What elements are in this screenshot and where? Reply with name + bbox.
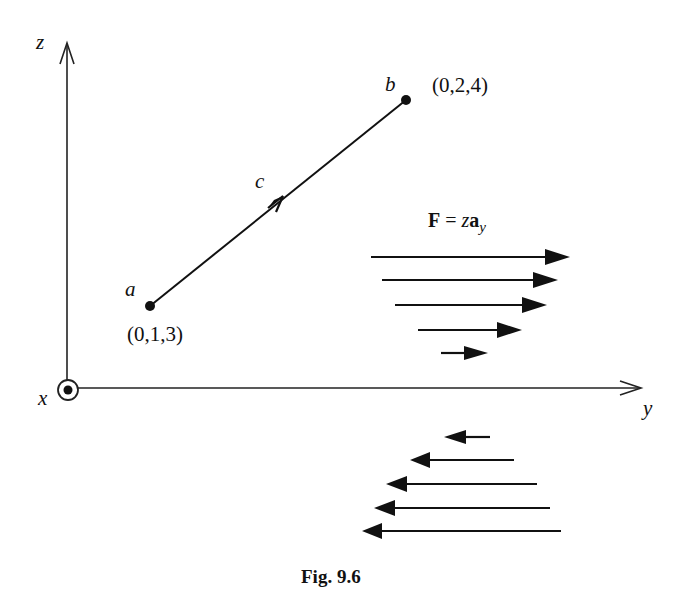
arrowhead-right-icon: [533, 272, 558, 288]
field-arrows-positive: [371, 249, 570, 360]
point-a-label: a: [125, 279, 136, 300]
field-F: F: [428, 209, 440, 231]
arrowhead-right-icon: [497, 322, 522, 338]
figure-caption: Fig. 9.6: [301, 567, 361, 586]
field-unit-a: a: [469, 209, 479, 231]
x-axis-label: x: [38, 388, 47, 409]
point-a: [145, 301, 155, 311]
z-axis-label: z: [36, 32, 44, 53]
arrowhead-right-icon: [522, 297, 547, 313]
point-b-coords: (0,2,4): [432, 75, 488, 96]
arrowhead-left-icon: [410, 452, 430, 468]
arrowhead-left-icon: [362, 523, 382, 539]
point-b: [401, 95, 411, 105]
field-unit-sub: y: [479, 219, 486, 235]
arrowhead-left-icon: [374, 500, 395, 516]
field-equation: F = zay: [428, 210, 486, 235]
path-c-label: c: [255, 171, 264, 192]
point-b-label: b: [385, 74, 396, 95]
point-a-coords: (0,1,3): [127, 324, 183, 345]
z-axis: [60, 43, 74, 388]
arrowhead-left-icon: [444, 430, 466, 444]
arrowhead-left-icon: [386, 476, 407, 492]
arrowhead-right-icon: [464, 346, 488, 360]
figure-canvas: [0, 0, 691, 597]
y-axis-label: y: [643, 398, 652, 419]
arrowhead-right-icon: [545, 249, 570, 265]
x-axis-out-of-page-icon: [58, 380, 78, 400]
field-equals: =: [445, 209, 456, 231]
y-axis: [77, 381, 641, 395]
field-arrows-negative: [362, 430, 561, 539]
path-c: [150, 100, 406, 306]
